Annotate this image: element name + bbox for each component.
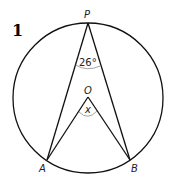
angle-26: 26° [79,57,97,68]
circle-diagram: 1 P O A B 26° x [0,0,170,182]
label-b: B [131,163,138,174]
radius-oa [47,97,88,160]
chord-pa [47,23,88,160]
label-p: P [84,9,91,20]
label-a: A [38,163,46,174]
chord-pb [88,23,130,160]
label-o: O [84,85,92,96]
angle-x: x [84,104,91,115]
problem-number: 1 [12,21,23,40]
radius-ob [88,97,130,160]
